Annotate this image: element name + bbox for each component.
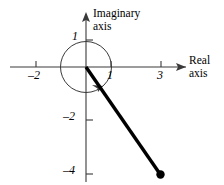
real-tick-label--2: –2 bbox=[28, 68, 40, 83]
real-tick-label-3: 3 bbox=[157, 68, 163, 83]
imag-tick-label-1: 1 bbox=[72, 29, 78, 44]
real-axis-label: Real axis bbox=[189, 54, 210, 79]
real-axis-label-line2: axis bbox=[189, 67, 210, 80]
vector-endpoint-dot bbox=[156, 170, 164, 178]
imag-tick-label--2: –2 bbox=[63, 109, 75, 124]
real-axis-label-line1: Real bbox=[189, 54, 210, 67]
imag-tick-label--4: –4 bbox=[63, 163, 75, 178]
real-tick-label-1: 1 bbox=[107, 68, 113, 83]
complex-plane-figure: Imaginary axis Real axis –2 1 3 1 –2 –4 bbox=[0, 0, 224, 185]
imaginary-axis-label-line1: Imaginary bbox=[93, 7, 140, 20]
complex-number-vector bbox=[86, 67, 160, 174]
imaginary-axis-label: Imaginary axis bbox=[93, 7, 140, 32]
imaginary-axis-label-line2: axis bbox=[93, 20, 140, 33]
